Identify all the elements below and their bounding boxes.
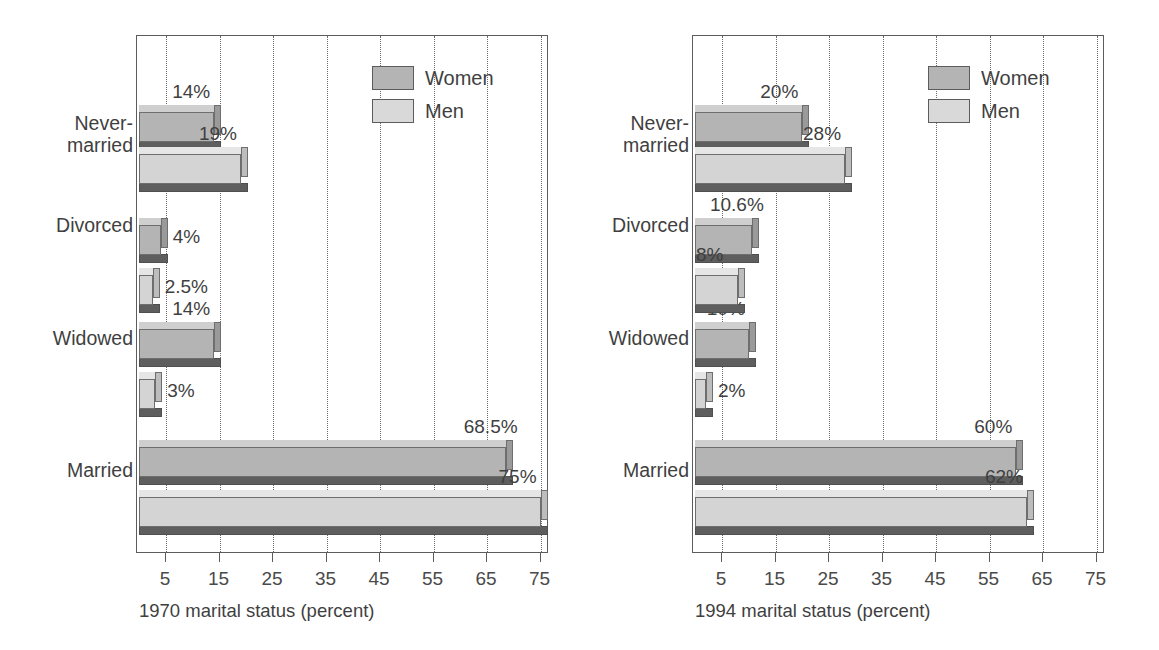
x-tick-65 [486, 553, 487, 562]
legend-swatch-men [372, 99, 414, 123]
bar-men-never--married [139, 147, 241, 177]
bar-top-face [139, 268, 152, 275]
x-tick-label-45: 45 [356, 568, 402, 590]
bar-front-face [695, 379, 706, 409]
bar-men-widowed [695, 372, 706, 402]
bar-side-face [845, 147, 852, 177]
bar-side-face [155, 372, 162, 402]
gridline-75 [1097, 36, 1098, 552]
bar-shadow-face [139, 476, 512, 485]
bar-women-widowed [695, 322, 749, 352]
bar-top-face [139, 372, 155, 379]
category-label-married: Married [559, 460, 689, 482]
legend-item-women: Women [372, 66, 494, 90]
x-tick-25 [828, 553, 829, 562]
bar-shadow-face [695, 408, 713, 417]
x-tick-label-75: 75 [517, 568, 563, 590]
bar-side-face [241, 147, 248, 177]
bar-side-face [541, 490, 548, 520]
bar-front-face [139, 447, 505, 477]
value-label: 75% [499, 466, 537, 488]
x-tick-label-55: 55 [410, 568, 456, 590]
bar-side-face [161, 218, 168, 248]
bar-shadow-face [139, 183, 248, 192]
legend-label-men: Men [981, 100, 1020, 123]
bar-top-face [695, 268, 738, 275]
x-tick-label-45: 45 [912, 568, 958, 590]
bar-shadow-face [695, 476, 1023, 485]
value-label: 3% [167, 380, 194, 402]
bar-front-face [695, 112, 802, 142]
x-tick-label-55: 55 [966, 568, 1012, 590]
bar-women-married [695, 440, 1016, 470]
bar-top-face [139, 490, 540, 497]
x-tick-label-15: 15 [752, 568, 798, 590]
gridline-75 [541, 36, 542, 552]
value-label: 2% [718, 380, 745, 402]
value-label: 68.5% [464, 416, 518, 438]
bar-side-face [214, 322, 221, 352]
legend-swatch-men [928, 99, 970, 123]
bar-front-face [695, 154, 845, 184]
x-tick-label-35: 35 [859, 568, 905, 590]
bar-women-never--married [695, 105, 802, 135]
legend-label-men: Men [425, 100, 464, 123]
bar-men-divorced [695, 268, 738, 298]
category-label-widowed: Widowed [559, 328, 689, 350]
bar-top-face [139, 440, 505, 447]
x-tick-75 [1096, 553, 1097, 562]
bar-top-face [695, 372, 706, 379]
value-label: 62% [985, 466, 1023, 488]
bar-shadow-face [139, 358, 221, 367]
value-label: 4% [173, 226, 200, 248]
bar-shadow-face [695, 358, 756, 367]
x-tick-55 [433, 553, 434, 562]
value-label: 28% [803, 123, 841, 145]
legend-label-women: Women [981, 67, 1050, 90]
x-axis-caption-1970: 1970 marital status (percent) [139, 600, 374, 622]
legend-item-women: Women [928, 66, 1050, 90]
bar-shadow-face [139, 304, 159, 313]
x-tick-25 [272, 553, 273, 562]
bar-shadow-face [695, 526, 1034, 535]
gridline-65 [1043, 36, 1044, 552]
category-label-married: Married [3, 460, 133, 482]
bar-shadow-face [695, 183, 852, 192]
bar-side-face [752, 218, 759, 248]
value-label: 2.5% [165, 276, 208, 298]
bar-front-face [139, 329, 214, 359]
value-label: 14% [172, 81, 210, 103]
bar-side-face [1027, 490, 1034, 520]
x-tick-label-5: 5 [698, 568, 744, 590]
value-label: 60% [974, 416, 1012, 438]
x-tick-65 [1042, 553, 1043, 562]
x-tick-45 [935, 553, 936, 562]
legend-swatch-women [928, 66, 970, 90]
x-tick-5 [165, 553, 166, 562]
x-tick-label-35: 35 [303, 568, 349, 590]
legend-swatch-women [372, 66, 414, 90]
bar-top-face [139, 218, 160, 225]
bar-top-face [139, 105, 214, 112]
bar-shadow-face [139, 254, 167, 263]
x-tick-75 [540, 553, 541, 562]
legend-item-men: Men [928, 99, 1020, 123]
category-label-widowed: Widowed [3, 328, 133, 350]
x-tick-55 [989, 553, 990, 562]
value-label: 20% [760, 81, 798, 103]
bar-side-face [706, 372, 713, 402]
x-tick-label-5: 5 [142, 568, 188, 590]
bar-front-face [695, 447, 1016, 477]
bar-men-widowed [139, 372, 155, 402]
bar-shadow-face [139, 526, 547, 535]
x-tick-label-25: 25 [249, 568, 295, 590]
bar-front-face [139, 154, 241, 184]
bar-men-divorced [139, 268, 152, 298]
bar-women-divorced [139, 218, 160, 248]
bar-front-face [695, 497, 1027, 527]
bar-front-face [139, 379, 155, 409]
x-tick-label-75: 75 [1073, 568, 1119, 590]
bar-men-never--married [695, 147, 845, 177]
x-tick-label-25: 25 [805, 568, 851, 590]
chart-panel-1970: Never- married Divorced Widowed Married … [0, 0, 580, 650]
